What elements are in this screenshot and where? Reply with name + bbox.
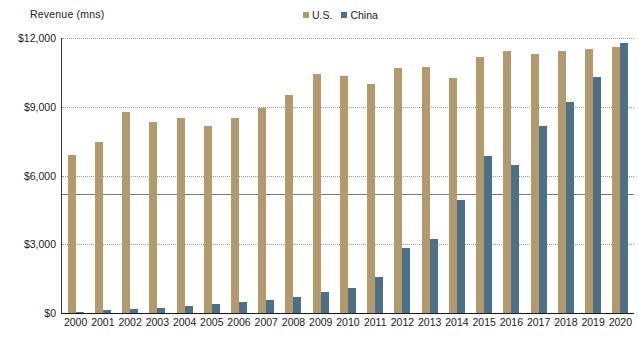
- bar-china-2007[interactable]: [266, 300, 274, 313]
- x-tick-label-2006: 2006: [225, 316, 252, 328]
- gridline-0: [62, 313, 634, 314]
- bar-china-2013[interactable]: [430, 239, 438, 313]
- bar-group: [198, 38, 225, 313]
- x-tick-label-2015: 2015: [471, 316, 498, 328]
- bar-group: [552, 38, 579, 313]
- bar-us-2005[interactable]: [204, 126, 212, 313]
- x-tick-label-2010: 2010: [334, 316, 361, 328]
- bar-group: [416, 38, 443, 313]
- bar-groups: [62, 38, 634, 313]
- bar-china-2006[interactable]: [239, 302, 247, 313]
- square-swatch-icon: [341, 12, 347, 18]
- bar-us-2020[interactable]: [612, 47, 620, 313]
- bar-china-2008[interactable]: [293, 297, 301, 313]
- bar-us-2007[interactable]: [258, 108, 266, 313]
- bar-group: [89, 38, 116, 313]
- bar-us-2002[interactable]: [122, 112, 130, 313]
- bar-group: [307, 38, 334, 313]
- legend-item-us[interactable]: U.S.: [303, 9, 332, 21]
- x-tick-label-2013: 2013: [416, 316, 443, 328]
- bar-us-2004[interactable]: [177, 118, 185, 313]
- bar-group: [62, 38, 89, 313]
- x-tick-label-2003: 2003: [144, 316, 171, 328]
- bar-group: [498, 38, 525, 313]
- bar-china-2003[interactable]: [157, 308, 165, 313]
- bar-china-2002[interactable]: [130, 309, 138, 313]
- x-tick-label-2014: 2014: [443, 316, 470, 328]
- bar-us-2019[interactable]: [585, 49, 593, 313]
- y-tick-label: $6,000: [24, 170, 56, 182]
- bar-group: [253, 38, 280, 313]
- x-tick-label-2019: 2019: [579, 316, 606, 328]
- bar-us-2009[interactable]: [313, 74, 321, 313]
- bar-us-2008[interactable]: [285, 95, 293, 313]
- y-axis-tick-labels: $12,000$9,000$6,000$3,000$0: [0, 38, 56, 313]
- bar-china-2018[interactable]: [566, 102, 574, 313]
- bar-china-2020[interactable]: [620, 43, 628, 313]
- bar-us-2014[interactable]: [449, 78, 457, 313]
- revenue-bar-chart: Revenue (mns) U.S. China $12,000$9,000$6…: [0, 0, 638, 339]
- bar-us-2017[interactable]: [531, 54, 539, 313]
- legend-label-china: China: [350, 9, 377, 21]
- bar-china-2011[interactable]: [375, 277, 383, 313]
- plot-area: [62, 38, 634, 313]
- x-tick-label-2008: 2008: [280, 316, 307, 328]
- bar-china-2001[interactable]: [103, 310, 111, 313]
- bar-china-2016[interactable]: [511, 165, 519, 313]
- bar-china-2000[interactable]: [76, 312, 84, 313]
- bar-us-2010[interactable]: [340, 76, 348, 313]
- bar-us-2012[interactable]: [394, 68, 402, 313]
- bar-group: [443, 38, 470, 313]
- y-axis-title: Revenue (mns): [30, 8, 104, 20]
- bar-us-2016[interactable]: [503, 51, 511, 313]
- bar-group: [280, 38, 307, 313]
- bar-group: [225, 38, 252, 313]
- bar-china-2019[interactable]: [593, 77, 601, 313]
- bar-group: [579, 38, 606, 313]
- bar-group: [389, 38, 416, 313]
- bar-us-2003[interactable]: [149, 122, 157, 313]
- bar-us-2000[interactable]: [68, 155, 76, 313]
- bar-us-2006[interactable]: [231, 118, 239, 313]
- bar-china-2009[interactable]: [321, 292, 329, 313]
- bar-china-2015[interactable]: [484, 156, 492, 313]
- square-swatch-icon: [303, 12, 309, 18]
- bar-group: [334, 38, 361, 313]
- bar-group: [171, 38, 198, 313]
- bar-china-2017[interactable]: [539, 126, 547, 313]
- x-tick-label-2001: 2001: [89, 316, 116, 328]
- bar-group: [116, 38, 143, 313]
- bar-china-2005[interactable]: [212, 304, 220, 313]
- x-axis-tick-labels: 2000200120022003200420052006200720082009…: [62, 316, 634, 328]
- x-tick-label-2007: 2007: [253, 316, 280, 328]
- x-tick-label-2009: 2009: [307, 316, 334, 328]
- bar-group: [362, 38, 389, 313]
- legend-label-us: U.S.: [312, 9, 332, 21]
- bar-group: [607, 38, 634, 313]
- x-tick-label-2018: 2018: [552, 316, 579, 328]
- x-tick-label-2005: 2005: [198, 316, 225, 328]
- bar-china-2012[interactable]: [402, 248, 410, 313]
- bar-us-2011[interactable]: [367, 84, 375, 313]
- bar-china-2004[interactable]: [185, 306, 193, 313]
- x-tick-label-2004: 2004: [171, 316, 198, 328]
- x-tick-label-2016: 2016: [498, 316, 525, 328]
- bar-group: [525, 38, 552, 313]
- y-tick-label: $9,000: [24, 101, 56, 113]
- x-tick-label-2002: 2002: [116, 316, 143, 328]
- bar-china-2010[interactable]: [348, 288, 356, 313]
- chart-legend: U.S. China: [303, 9, 378, 21]
- x-tick-label-2011: 2011: [362, 316, 389, 328]
- y-tick-label: $3,000: [24, 238, 56, 250]
- bar-us-2018[interactable]: [558, 51, 566, 313]
- bar-china-2014[interactable]: [457, 200, 465, 313]
- x-tick-label-2017: 2017: [525, 316, 552, 328]
- bar-us-2001[interactable]: [95, 142, 103, 313]
- bar-us-2013[interactable]: [422, 67, 430, 313]
- legend-item-china[interactable]: China: [341, 9, 377, 21]
- bar-group: [144, 38, 171, 313]
- x-tick-label-2000: 2000: [62, 316, 89, 328]
- bar-us-2015[interactable]: [476, 57, 484, 313]
- y-tick-label: $12,000: [18, 32, 56, 44]
- x-tick-label-2012: 2012: [389, 316, 416, 328]
